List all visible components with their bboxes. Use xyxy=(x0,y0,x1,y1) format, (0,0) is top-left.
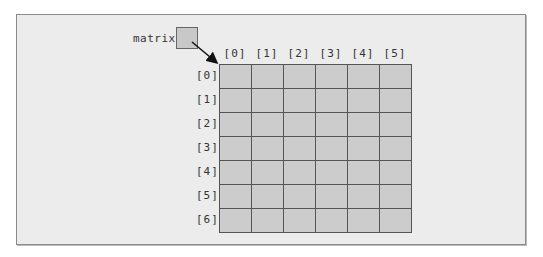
column-header: [5] xyxy=(379,47,411,60)
matrix-cell xyxy=(284,65,316,89)
matrix-cell xyxy=(220,137,252,161)
matrix-cell xyxy=(316,113,348,137)
matrix-cell xyxy=(220,161,252,185)
row-header: [5] xyxy=(196,189,218,202)
matrix-cell xyxy=(316,137,348,161)
matrix-cell xyxy=(380,161,412,185)
matrix-cell xyxy=(316,65,348,89)
matrix-cell xyxy=(380,65,412,89)
matrix-cell xyxy=(380,209,412,233)
row-header: [1] xyxy=(196,93,218,106)
matrix-cell xyxy=(284,185,316,209)
matrix-cell xyxy=(380,185,412,209)
matrix-cell xyxy=(348,113,380,137)
matrix-cell xyxy=(252,161,284,185)
matrix-cell xyxy=(380,113,412,137)
matrix-cell xyxy=(252,89,284,113)
matrix-cell xyxy=(316,89,348,113)
matrix-cell xyxy=(284,209,316,233)
matrix-cell xyxy=(252,113,284,137)
row-header: [0] xyxy=(196,69,218,82)
column-header: [3] xyxy=(315,47,347,60)
column-header: [1] xyxy=(251,47,283,60)
row-header: [2] xyxy=(196,117,218,130)
matrix-cell xyxy=(220,209,252,233)
matrix-cell xyxy=(348,65,380,89)
matrix-cell xyxy=(316,209,348,233)
matrix-cell xyxy=(348,185,380,209)
matrix-cell xyxy=(348,161,380,185)
matrix-cell xyxy=(348,209,380,233)
matrix-cell xyxy=(284,137,316,161)
matrix-cell xyxy=(380,137,412,161)
matrix-cell xyxy=(220,65,252,89)
matrix-grid xyxy=(219,64,412,233)
matrix-cell xyxy=(284,113,316,137)
matrix-cell xyxy=(316,185,348,209)
column-header: [4] xyxy=(347,47,379,60)
row-header: [4] xyxy=(196,165,218,178)
matrix-cell xyxy=(220,185,252,209)
matrix-cell xyxy=(284,161,316,185)
matrix-cell xyxy=(316,161,348,185)
matrix-cell xyxy=(252,137,284,161)
matrix-cell xyxy=(220,113,252,137)
column-header: [0] xyxy=(219,47,251,60)
matrix-cell xyxy=(348,89,380,113)
matrix-cell xyxy=(252,185,284,209)
row-header: [6] xyxy=(196,213,218,226)
matrix-cell xyxy=(348,137,380,161)
matrix-cell xyxy=(284,89,316,113)
matrix-cell xyxy=(252,65,284,89)
column-header: [2] xyxy=(283,47,315,60)
matrix-cell xyxy=(380,89,412,113)
matrix-cell xyxy=(220,89,252,113)
matrix-cell xyxy=(252,209,284,233)
row-header: [3] xyxy=(196,141,218,154)
